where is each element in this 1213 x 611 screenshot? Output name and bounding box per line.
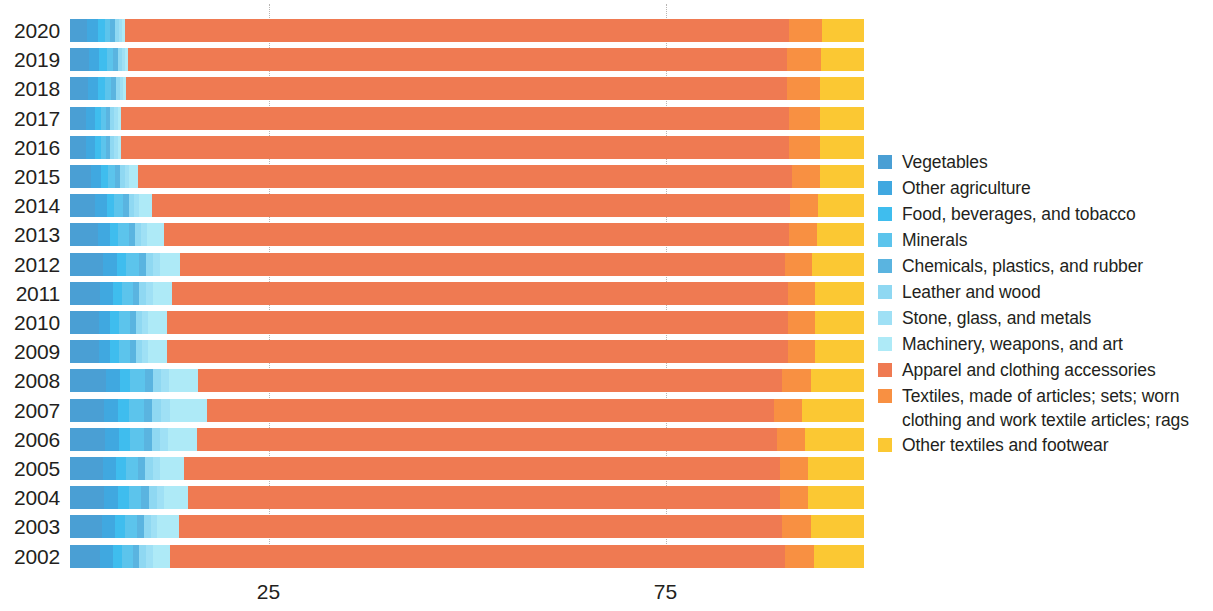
bar-segment[interactable] bbox=[70, 136, 86, 159]
stacked-bar[interactable] bbox=[70, 515, 864, 538]
bar-segment[interactable] bbox=[167, 340, 789, 363]
bar-segment[interactable] bbox=[153, 369, 162, 392]
bar-segment[interactable] bbox=[144, 428, 152, 451]
bar-segment[interactable] bbox=[180, 253, 784, 276]
bar-segment[interactable] bbox=[138, 457, 145, 480]
bar-segment[interactable] bbox=[88, 77, 98, 100]
bar-segment[interactable] bbox=[148, 311, 167, 334]
bar-segment[interactable] bbox=[820, 107, 864, 130]
bar-segment[interactable] bbox=[814, 545, 864, 568]
bar-segment[interactable] bbox=[99, 311, 111, 334]
bar-segment[interactable] bbox=[121, 136, 790, 159]
bar-segment[interactable] bbox=[207, 399, 775, 422]
legend-item[interactable]: Other textiles and footwear bbox=[878, 433, 1213, 458]
bar-segment[interactable] bbox=[790, 194, 818, 217]
bar-segment[interactable] bbox=[101, 165, 108, 188]
bar-segment[interactable] bbox=[117, 253, 127, 276]
bar-segment[interactable] bbox=[87, 19, 97, 42]
bar-segment[interactable] bbox=[197, 428, 777, 451]
bar-segment[interactable] bbox=[144, 399, 152, 422]
bar-segment[interactable] bbox=[137, 515, 144, 538]
bar-segment[interactable] bbox=[170, 399, 207, 422]
bar-segment[interactable] bbox=[126, 253, 139, 276]
bar-segment[interactable] bbox=[70, 77, 88, 100]
bar-segment[interactable] bbox=[129, 486, 142, 509]
bar-segment[interactable] bbox=[153, 282, 173, 305]
bar-segment[interactable] bbox=[789, 223, 817, 246]
bar-segment[interactable] bbox=[99, 48, 106, 71]
bar-segment[interactable] bbox=[110, 340, 119, 363]
stacked-bar[interactable] bbox=[70, 457, 864, 480]
bar-segment[interactable] bbox=[160, 428, 168, 451]
bar-segment[interactable] bbox=[780, 457, 809, 480]
legend-item[interactable]: Chemicals, plastics, and rubber bbox=[878, 254, 1213, 279]
bar-segment[interactable] bbox=[782, 515, 811, 538]
bar-segment[interactable] bbox=[802, 399, 864, 422]
bar-segment[interactable] bbox=[144, 515, 151, 538]
bar-segment[interactable] bbox=[160, 253, 181, 276]
bar-segment[interactable] bbox=[70, 545, 100, 568]
bar-segment[interactable] bbox=[119, 340, 129, 363]
bar-segment[interactable] bbox=[817, 223, 864, 246]
stacked-bar[interactable] bbox=[70, 340, 864, 363]
bar-segment[interactable] bbox=[70, 165, 91, 188]
bar-segment[interactable] bbox=[148, 340, 167, 363]
bar-segment[interactable] bbox=[138, 165, 791, 188]
stacked-bar[interactable] bbox=[70, 369, 864, 392]
legend-item[interactable]: Food, beverages, and tobacco bbox=[878, 202, 1213, 227]
bar-segment[interactable] bbox=[121, 107, 790, 130]
bar-segment[interactable] bbox=[808, 486, 864, 509]
bar-segment[interactable] bbox=[788, 282, 815, 305]
bar-segment[interactable] bbox=[198, 369, 782, 392]
legend-item[interactable]: Apparel and clothing accessories bbox=[878, 358, 1213, 383]
bar-segment[interactable] bbox=[106, 369, 120, 392]
bar-segment[interactable] bbox=[126, 77, 787, 100]
legend-item[interactable]: Stone, glass, and metals bbox=[878, 306, 1213, 331]
bar-segment[interactable] bbox=[70, 399, 104, 422]
legend-item[interactable]: Other agriculture bbox=[878, 176, 1213, 201]
stacked-bar[interactable] bbox=[70, 311, 864, 334]
bar-segment[interactable] bbox=[89, 48, 99, 71]
bar-segment[interactable] bbox=[119, 428, 129, 451]
bar-segment[interactable] bbox=[103, 457, 116, 480]
bar-segment[interactable] bbox=[139, 253, 146, 276]
legend-item[interactable]: Minerals bbox=[878, 228, 1213, 253]
bar-segment[interactable] bbox=[108, 165, 115, 188]
bar-segment[interactable] bbox=[146, 253, 153, 276]
stacked-bar[interactable] bbox=[70, 223, 864, 246]
bar-segment[interactable] bbox=[152, 399, 162, 422]
bar-segment[interactable] bbox=[70, 515, 102, 538]
bar-segment[interactable] bbox=[160, 457, 184, 480]
bar-segment[interactable] bbox=[114, 194, 123, 217]
bar-segment[interactable] bbox=[815, 340, 863, 363]
bar-segment[interactable] bbox=[139, 545, 146, 568]
bar-segment[interactable] bbox=[787, 77, 820, 100]
bar-segment[interactable] bbox=[164, 223, 790, 246]
bar-segment[interactable] bbox=[141, 486, 148, 509]
bar-segment[interactable] bbox=[118, 223, 128, 246]
bar-segment[interactable] bbox=[126, 457, 139, 480]
bar-segment[interactable] bbox=[113, 545, 122, 568]
bar-segment[interactable] bbox=[792, 165, 821, 188]
bar-segment[interactable] bbox=[152, 428, 161, 451]
legend-item[interactable]: Textiles, made of articles; sets; worn c… bbox=[878, 384, 1213, 432]
bar-segment[interactable] bbox=[139, 194, 152, 217]
bar-segment[interactable] bbox=[107, 194, 115, 217]
bar-segment[interactable] bbox=[70, 428, 105, 451]
bar-segment[interactable] bbox=[100, 545, 113, 568]
bar-segment[interactable] bbox=[788, 311, 815, 334]
bar-segment[interactable] bbox=[104, 486, 118, 509]
bar-segment[interactable] bbox=[100, 282, 113, 305]
stacked-bar[interactable] bbox=[70, 282, 864, 305]
bar-segment[interactable] bbox=[822, 19, 864, 42]
bar-segment[interactable] bbox=[789, 136, 820, 159]
bar-segment[interactable] bbox=[161, 369, 169, 392]
bar-segment[interactable] bbox=[782, 369, 811, 392]
bar-segment[interactable] bbox=[125, 515, 137, 538]
bar-segment[interactable] bbox=[119, 311, 129, 334]
bar-segment[interactable] bbox=[820, 136, 864, 159]
bar-segment[interactable] bbox=[788, 340, 815, 363]
bar-segment[interactable] bbox=[179, 515, 782, 538]
bar-segment[interactable] bbox=[103, 253, 116, 276]
bar-segment[interactable] bbox=[120, 369, 130, 392]
